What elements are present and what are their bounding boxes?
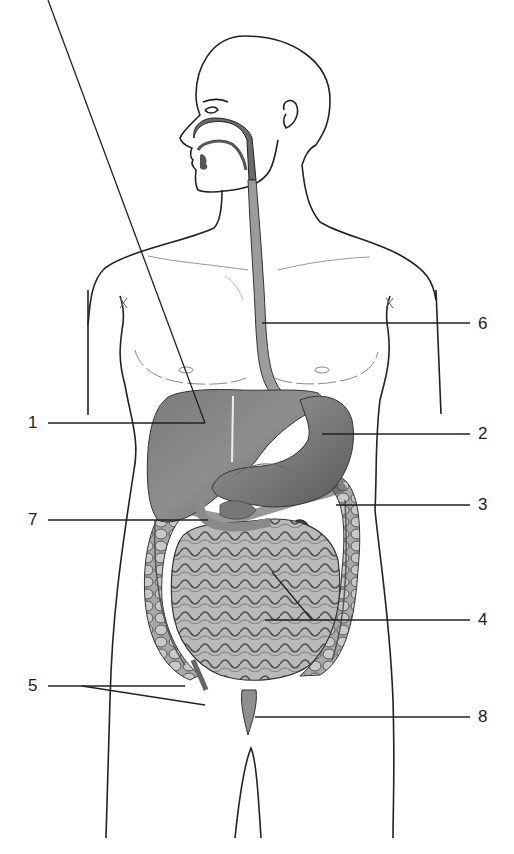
label-7: 7 [28, 511, 37, 528]
label-2: 2 [478, 425, 487, 442]
leader-lines [48, 0, 205, 423]
small-intestine [171, 519, 340, 680]
esophagus [248, 180, 282, 395]
leader-line-5-b [82, 686, 205, 705]
label-5: 5 [28, 677, 37, 694]
label-8: 8 [478, 708, 487, 725]
leader-line-1 [48, 0, 205, 423]
mouth-pharynx [194, 118, 256, 180]
digestive-system-diagram [0, 0, 514, 854]
rectum [241, 690, 256, 735]
label-1: 1 [28, 414, 37, 431]
label-3: 3 [478, 496, 487, 513]
label-6: 6 [478, 315, 487, 332]
label-4: 4 [478, 611, 487, 628]
